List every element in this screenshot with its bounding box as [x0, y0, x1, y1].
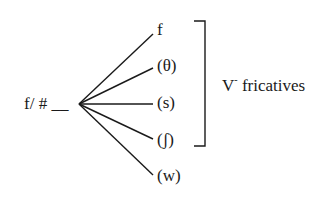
branch-label-f: f	[157, 21, 163, 38]
bracket-label-v: V	[222, 76, 234, 95]
bracket	[194, 21, 205, 146]
branch-label-esh: (ʃ)	[157, 131, 174, 148]
source-label: f/ # __	[24, 95, 68, 112]
branch-label-s: (s)	[157, 94, 175, 111]
bracket-label-superscript: -	[234, 74, 237, 85]
branch-line-theta	[79, 68, 153, 104]
bracket-label: V- fricatives	[222, 77, 305, 94]
branch-line-f	[79, 34, 153, 104]
bracket-label-fricatives: fricatives	[238, 76, 306, 95]
branch-label-w: (w)	[157, 167, 181, 184]
branch-line-esh	[79, 104, 153, 139]
branch-line-w	[79, 104, 153, 175]
branch-label-theta: (θ)	[157, 57, 176, 74]
